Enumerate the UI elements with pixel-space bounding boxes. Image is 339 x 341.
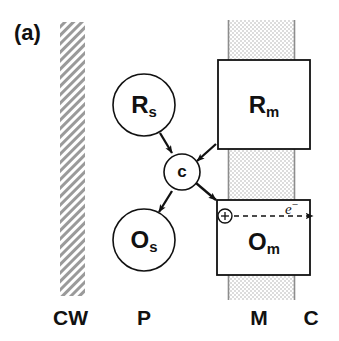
node-label-Os-base: O <box>131 226 150 253</box>
arrow-c-to-Os <box>159 191 172 212</box>
cell-wall-bar <box>60 22 85 296</box>
arrow-Rm-to-c <box>197 144 216 161</box>
node-label-Rs-sub: s <box>149 104 157 120</box>
electron-label: e− <box>285 198 298 218</box>
node-label-Rs: Rs <box>114 91 174 119</box>
node-label-Rm: Rm <box>234 91 294 119</box>
node-label-Rs-base: R <box>131 91 148 118</box>
node-label-Om-base: O <box>248 228 267 255</box>
circled-plus-icon <box>218 209 232 223</box>
axis-label-cw: CW <box>48 306 93 330</box>
electron-label-sup: − <box>292 198 298 210</box>
node-label-Os-sub: s <box>149 239 157 255</box>
arrow-Rs-to-c <box>160 133 172 153</box>
node-label-Om: Om <box>234 228 294 256</box>
node-label-Os: Os <box>114 226 174 254</box>
diagram-figure: (a) Rs c Os Rm Om e− CW P M C <box>0 0 339 341</box>
node-label-Rm-sub: m <box>266 104 279 120</box>
axis-label-c: C <box>298 306 324 330</box>
node-label-Om-sub: m <box>267 241 280 257</box>
electron-label-base: e <box>285 201 292 217</box>
panel-label: (a) <box>14 20 41 46</box>
axis-label-p: P <box>130 306 158 330</box>
node-label-c: c <box>167 162 197 182</box>
node-label-Rm-base: R <box>249 91 266 118</box>
node-label-c-base: c <box>177 162 186 181</box>
arrow-c-to-Om <box>196 183 216 200</box>
axis-label-m: M <box>244 306 274 330</box>
